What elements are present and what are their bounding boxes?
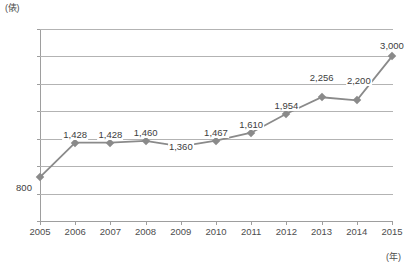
data-point-label: 2,200	[346, 76, 372, 86]
x-axis-tick-mark	[357, 222, 358, 225]
x-axis-tick-label: 2006	[65, 226, 86, 237]
x-axis-tick-mark	[181, 222, 182, 225]
x-axis-tick-mark	[40, 222, 41, 225]
x-axis-tick-label: 2005	[29, 226, 50, 237]
x-axis-tick-mark	[322, 222, 323, 225]
data-point-label: 1,428	[98, 130, 124, 140]
x-axis-tick-label: 2008	[135, 226, 156, 237]
x-axis-tick-label: 2012	[276, 226, 297, 237]
data-point-label: 1,360	[168, 142, 194, 152]
data-point-label: 1,954	[274, 101, 300, 111]
x-axis-tick-label: 2007	[100, 226, 121, 237]
x-axis-tick-label: 2014	[346, 226, 367, 237]
x-axis-tick-mark	[392, 222, 393, 225]
x-axis-tick-mark	[251, 222, 252, 225]
data-point-label: 1,610	[238, 120, 264, 130]
data-point-label: 1,428	[62, 130, 88, 140]
data-point-label: 1,460	[133, 128, 159, 138]
x-axis-tick-mark	[146, 222, 147, 225]
data-point-label: 2,256	[309, 73, 335, 83]
x-axis-tick-label: 2011	[241, 226, 261, 237]
data-point-label: 3,000	[379, 41, 404, 51]
x-axis-unit-label: (年)	[386, 250, 401, 263]
x-axis-tick-mark	[75, 222, 76, 225]
series-line-path	[40, 29, 393, 222]
x-axis-tick-mark	[110, 222, 111, 225]
data-point-label: 800	[15, 183, 33, 193]
plot-area: 05001,0001,5002,0002,5003,0003,500200520…	[40, 29, 393, 222]
data-point-label: 1,467	[203, 128, 229, 138]
x-axis-tick-label: 2010	[205, 226, 226, 237]
x-axis-tick-label: 2013	[311, 226, 332, 237]
x-axis-tick-mark	[216, 222, 217, 225]
y-axis-unit-label: (俵)	[5, 1, 19, 14]
line-chart: (俵) 05001,0001,5002,0002,5003,0003,50020…	[0, 0, 404, 265]
x-axis-tick-label: 2015	[381, 226, 402, 237]
x-axis-tick-mark	[286, 222, 287, 225]
x-axis-tick-label: 2009	[170, 226, 191, 237]
